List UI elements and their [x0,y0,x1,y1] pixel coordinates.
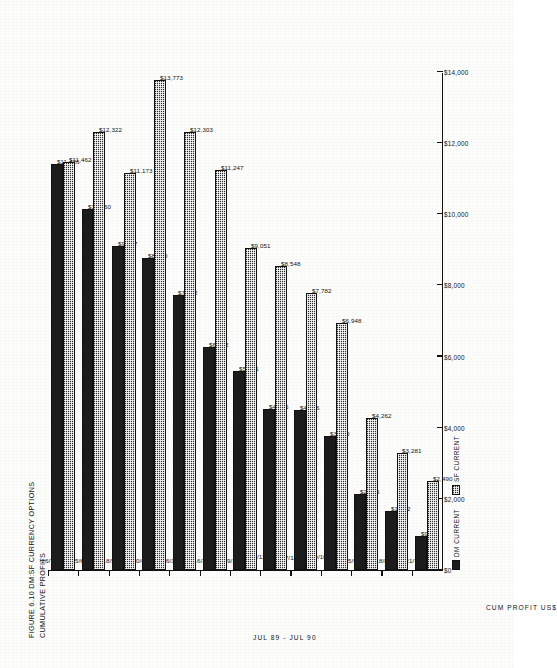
bar-value-label: $11,462 [69,156,92,163]
value-tick [437,71,443,72]
category-tick [351,570,352,576]
value-tick [437,142,443,143]
value-axis-title: CUM PROFIT US$ [486,604,557,611]
value-tick-label: $10,000 [444,211,469,218]
bar-value-label: $2,490 [433,475,453,482]
bar-value-label: $11,173 [130,166,153,173]
category-tick [139,570,140,576]
bar-sf [215,170,227,570]
bar-sf [93,132,105,570]
bar-value-label: $12,322 [99,125,122,132]
value-tick-label: $8,000 [444,282,465,289]
bar-dm [203,347,215,570]
legend-label-dm: DM CURRENT [453,509,460,557]
bar-sf [245,248,257,570]
category-tick [230,570,231,576]
legend-label-sf: SF CURRENT [453,436,460,482]
bar-value-label: $8,548 [281,259,301,266]
value-tick [437,284,443,285]
value-tick [437,213,443,214]
figure-title-line-1: FIGURE 6.10 DM:SF CURRENCY OPTIONS [26,482,37,638]
legend-item-sf: SF CURRENT [452,436,460,495]
category-tick [109,570,110,576]
value-tick [437,355,443,356]
category-tick [290,570,291,576]
chart-stage: FIGURE 6.10 DM:SF CURRENCY OPTIONS CUMUL… [22,24,492,644]
bar-sf [427,481,439,570]
value-tick [437,427,443,428]
plot-area: $0$2,000$4,000$6,000$8,000$10,000$12,000… [48,72,442,570]
value-tick-label: $0 [444,567,452,574]
category-axis-title: JUL 89 - JUL 90 [253,634,317,641]
bar-dm [51,164,63,570]
bar-value-label: $11,247 [221,163,244,170]
category-tick [412,570,413,576]
bar-dm [142,258,154,570]
bar-value-label: $13,773 [160,74,183,81]
bar-dm [354,494,366,570]
category-tick [169,570,170,576]
bar-dm [263,409,275,570]
bar-sf [366,418,378,570]
bar-sf [306,293,318,570]
bar-sf [154,80,166,570]
bar-dm [82,209,94,570]
bar-value-label: $4,262 [372,412,392,419]
legend-swatch-dm [452,560,460,570]
bar-value-label: $12,303 [190,126,213,133]
value-tick-label: $6,000 [444,354,465,361]
category-tick [78,570,79,576]
category-tick [260,570,261,576]
bar-value-label: $6,948 [342,316,362,323]
bar-dm [112,246,124,570]
bar-sf [184,132,196,570]
bar-dm [233,371,245,570]
bar-sf [397,453,409,570]
bar-dm [324,436,336,570]
bar-sf [124,173,136,570]
legend-item-dm: DM CURRENT [452,509,460,570]
bar-value-label: $3,281 [402,447,422,454]
bar-dm [415,536,427,570]
bar-dm [294,410,306,570]
category-tick [381,570,382,576]
value-tick-label: $14,000 [444,69,469,76]
category-tick [321,570,322,576]
bar-sf [63,162,75,570]
category-tick [48,570,49,576]
value-tick-label: $12,000 [444,140,469,147]
value-axis-line [442,73,443,571]
legend-swatch-sf [452,485,460,495]
bar-sf [275,266,287,570]
bar-dm [385,511,397,570]
value-tick-label: $4,000 [444,425,465,432]
bar-value-label: $7,782 [312,287,332,294]
category-tick [200,570,201,576]
bar-sf [336,323,348,570]
chart-legend: DM CURRENTSF CURRENT [452,436,460,570]
bar-dm [173,295,185,570]
bar-value-label: $9,051 [251,242,271,249]
